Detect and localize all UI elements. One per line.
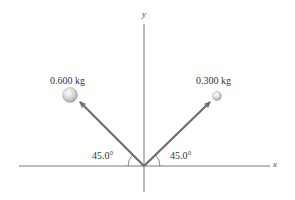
heavy-ball-mass-label: 0.600 kg <box>50 76 85 86</box>
right-angle-label: 45.0° <box>170 151 192 161</box>
angle-arc-right <box>155 155 160 166</box>
collision-diagram <box>0 0 295 200</box>
heavy-ball-icon <box>63 88 78 103</box>
light-ball-mass-label: 0.300 kg <box>196 76 231 86</box>
light-ball-icon <box>213 92 222 101</box>
angle-arc-left <box>128 155 133 166</box>
left-angle-label: 45.0° <box>92 151 114 161</box>
y-axis-label: y <box>142 10 146 19</box>
x-axis-label: x <box>273 160 277 169</box>
